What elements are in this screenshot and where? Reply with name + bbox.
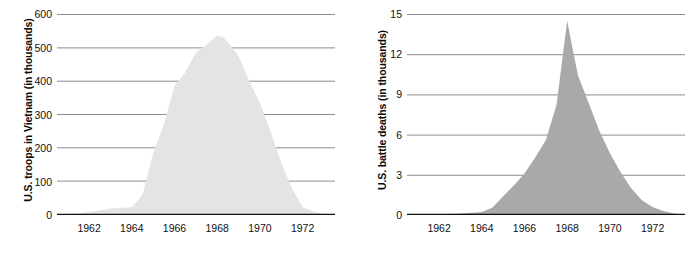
x-tick-label: 1972 [291, 222, 314, 234]
x-tick-label: 1966 [513, 222, 536, 234]
chart-panel-deaths: U.S. battle deaths (in thousands) 15 12 … [350, 0, 700, 253]
x-tick-label: 1966 [163, 222, 186, 234]
x-tick-label: 1970 [598, 222, 621, 234]
x-tick-labels-deaths: 1962 1964 1966 1968 1970 1972 [350, 0, 700, 253]
chart-panel-troops: U.S. troops in Vietnam (in thousands) 60… [0, 0, 350, 253]
x-tick-label: 1962 [427, 222, 450, 234]
x-tick-label: 1968 [556, 222, 579, 234]
vietnam-war-charts-figure: U.S. troops in Vietnam (in thousands) 60… [0, 0, 700, 253]
x-tick-label: 1970 [248, 222, 271, 234]
x-tick-label: 1972 [641, 222, 664, 234]
x-tick-label: 1964 [120, 222, 143, 234]
x-tick-label: 1968 [206, 222, 229, 234]
x-tick-label: 1964 [470, 222, 493, 234]
x-tick-label: 1962 [77, 222, 100, 234]
x-tick-labels-troops: 1962 1964 1966 1968 1970 1972 [0, 0, 350, 253]
